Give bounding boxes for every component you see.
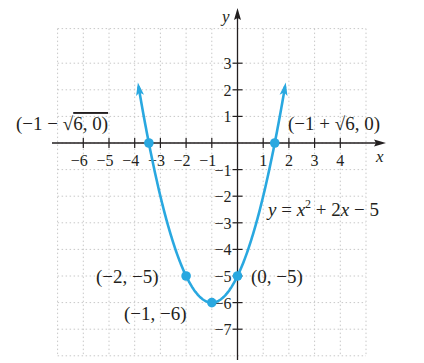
equation-label: y = x2 + 2x − 5	[266, 197, 379, 220]
point-label-neg2-neg5: (−2, −5)	[96, 266, 159, 288]
x-tick-label: −5	[96, 152, 113, 169]
x-tick-label: 1	[259, 152, 267, 169]
left-root-label: (−1 − √6, 0)	[16, 113, 108, 135]
y-tick-label: 1	[224, 108, 232, 125]
data-point	[270, 138, 280, 148]
parabola-chart: −6−5−4−3−2−11234321−1−2−3−4−5−6−7 y x (−…	[0, 0, 424, 363]
right-root-label: (−1 + √6, 0)	[288, 113, 380, 135]
point-label-0-neg5: (0, −5)	[251, 266, 303, 288]
point-label-neg1-neg6: (−1, −6)	[124, 303, 187, 325]
y-tick-label: −3	[214, 215, 231, 232]
x-tick-label: −4	[122, 152, 139, 169]
x-tick-label: 4	[336, 152, 344, 169]
y-tick-label: −5	[214, 268, 231, 285]
x-axis-label: x	[375, 147, 384, 166]
y-tick-label: −7	[214, 321, 231, 338]
y-tick-label: 3	[224, 55, 232, 72]
y-tick-label: −2	[214, 188, 231, 205]
y-tick-label: 2	[224, 82, 232, 99]
y-tick-label: −4	[214, 241, 231, 258]
y-axis-label: y	[220, 7, 230, 26]
data-point	[233, 271, 243, 281]
y-tick-label: −1	[214, 162, 231, 179]
x-tick-label: 2	[285, 152, 293, 169]
x-tick-label: −2	[174, 152, 191, 169]
tick-labels: −6−5−4−3−2−11234321−1−2−3−4−5−6−7	[71, 55, 345, 338]
x-tick-label: 3	[311, 152, 319, 169]
data-point	[207, 298, 217, 308]
data-point	[181, 271, 191, 281]
data-point	[144, 138, 154, 148]
x-tick-label: −6	[71, 152, 88, 169]
